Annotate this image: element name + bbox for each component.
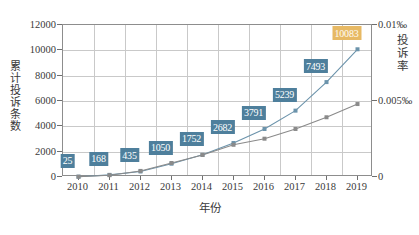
complaint-trend-chart: 累计投诉条数 投诉率 020004000600080001000012000 0… xyxy=(0,0,419,235)
series-marker xyxy=(201,153,205,157)
data-point-label: 1752 xyxy=(179,132,203,146)
x-axis-tick-label: 2011 xyxy=(98,181,119,192)
series-marker xyxy=(263,127,267,131)
series-marker xyxy=(77,175,81,179)
y-axis-left-tick-label: 2000 xyxy=(8,145,56,156)
y-axis-left-tick-label: 8000 xyxy=(8,69,56,80)
x-axis-label: 年份 xyxy=(0,199,419,215)
data-point-label: 7493 xyxy=(303,59,327,73)
plot-area: 2516843510501752268237915239749310083 xyxy=(62,24,372,176)
x-axis-tick-label: 2015 xyxy=(222,181,243,192)
series-marker xyxy=(232,143,236,147)
data-point-label: 2682 xyxy=(210,120,234,134)
y-axis-right-tick-label: 0.01‰ xyxy=(378,19,407,30)
data-point-label: 25 xyxy=(60,154,75,168)
y-axis-right-tick-label: 0 xyxy=(378,171,383,182)
series-marker xyxy=(325,115,329,119)
data-point-label: 435 xyxy=(120,148,139,162)
series-marker xyxy=(108,173,112,177)
x-axis-tick-label: 2013 xyxy=(160,181,181,192)
series-marker xyxy=(263,137,267,141)
data-point-label: 5239 xyxy=(272,88,296,102)
x-axis-tick-label: 2010 xyxy=(67,181,88,192)
y-axis-left-tick-label: 4000 xyxy=(8,120,56,131)
series-lines xyxy=(63,25,373,177)
x-axis-tick-label: 2012 xyxy=(129,181,150,192)
y-axis-left-tick-mark xyxy=(57,176,62,177)
data-point-label: 3791 xyxy=(241,106,265,120)
y-axis-left-tick-label: 12000 xyxy=(8,19,56,30)
y-axis-right-label: 投诉率 xyxy=(393,34,409,73)
series-marker xyxy=(170,161,174,165)
x-axis-tick-label: 2014 xyxy=(191,181,212,192)
series-marker xyxy=(325,80,329,84)
x-axis-tick-label: 2018 xyxy=(315,181,336,192)
x-axis-tick-label: 2019 xyxy=(346,181,367,192)
series-marker xyxy=(139,169,143,173)
y-axis-left-tick-label: 10000 xyxy=(8,44,56,55)
x-axis-tick-label: 2016 xyxy=(253,181,274,192)
y-axis-left-tick-label: 6000 xyxy=(8,95,56,106)
data-point-label: 1050 xyxy=(148,141,172,155)
data-point-label: 168 xyxy=(89,152,108,166)
series-marker xyxy=(356,102,360,106)
x-axis-tick-label: 2017 xyxy=(284,181,305,192)
series-line xyxy=(79,104,358,177)
series-marker xyxy=(294,109,298,113)
y-axis-left-tick-label: 0 xyxy=(8,171,56,182)
y-axis-right-tick-label: 0.005‰ xyxy=(378,95,412,106)
series-marker xyxy=(356,47,360,51)
data-point-label: 10083 xyxy=(332,26,361,40)
series-marker xyxy=(294,127,298,131)
